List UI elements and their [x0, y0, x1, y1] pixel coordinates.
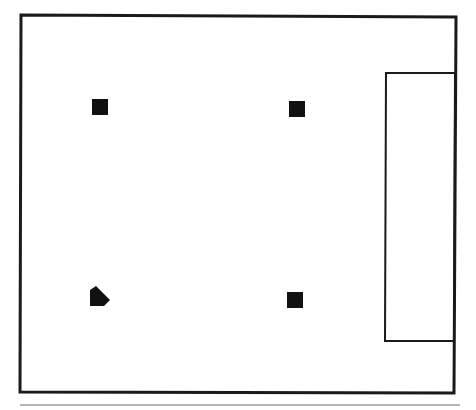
markers-group [90, 99, 305, 308]
home-plate-marker [90, 286, 110, 306]
diagram-canvas [0, 0, 476, 410]
base-top-left-marker [92, 99, 108, 115]
field-outline [20, 15, 456, 393]
base-top-right-marker [289, 101, 305, 117]
base-bottom-right-marker [287, 292, 303, 308]
side-box [385, 73, 455, 341]
